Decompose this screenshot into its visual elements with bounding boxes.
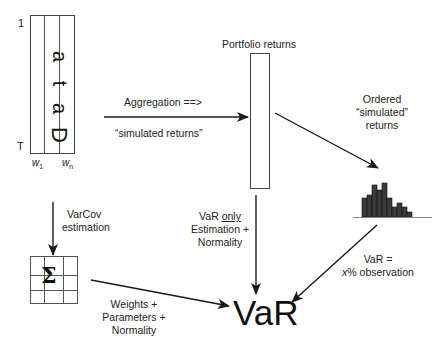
data-word: a t a D (30, 15, 74, 153)
histogram-bar (367, 195, 372, 217)
portfolio-returns-column (251, 54, 270, 189)
sigma-symbol: Σ (41, 262, 57, 288)
var-only-label: VaR only Estimation + Normality (188, 210, 252, 249)
var-observation-label: VaR = x% observation (333, 253, 423, 279)
weights-parameters-label: Weights + Parameters + Normality (100, 298, 168, 337)
simulated-returns-label: “simulated returns” (115, 127, 203, 140)
histogram-bar (372, 185, 377, 217)
portfolio-returns-title: Portfolio returns (222, 38, 296, 51)
histogram-bar (397, 203, 402, 217)
histogram-bar (402, 207, 407, 217)
aggregation-label: Aggregation ==> (124, 96, 202, 109)
histogram-bar (392, 207, 397, 217)
var-result: VaR (233, 293, 299, 333)
histogram-bar (377, 190, 382, 217)
ordered-returns-label: Ordered “simulated” returns (352, 93, 412, 132)
row-label-last: T (17, 140, 24, 152)
histogram-bar (407, 212, 412, 217)
histogram-bar (382, 183, 387, 217)
histogram-bar (362, 198, 367, 217)
row-label-first: 1 (18, 17, 24, 29)
histogram (362, 183, 412, 217)
varcov-estimation-label: VarCov estimation (62, 208, 110, 234)
histogram-bar (387, 198, 392, 217)
column-label-w1: w1 (32, 157, 43, 170)
column-label-wn: wn (62, 157, 73, 170)
data-letter: D (46, 113, 72, 157)
